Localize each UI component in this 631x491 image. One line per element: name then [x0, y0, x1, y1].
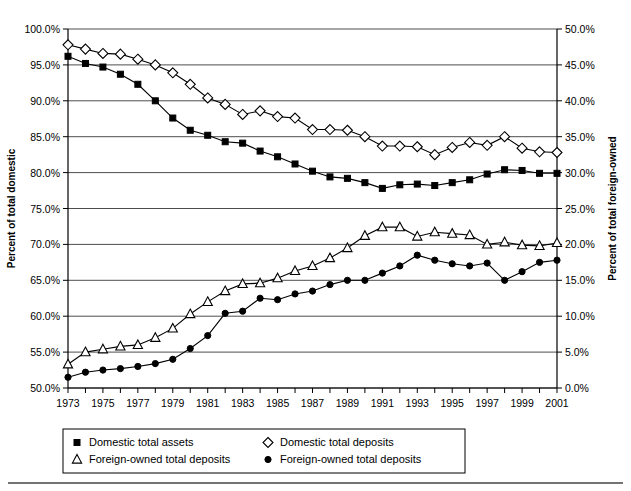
series-marker-3 [65, 374, 71, 380]
series-marker-3 [222, 310, 228, 316]
series-marker-2 [430, 227, 439, 236]
x-axis-tick-label: 1979 [161, 397, 185, 409]
y-axis-right-tick-label: 45.0% [565, 59, 595, 71]
series-marker-0 [117, 71, 123, 77]
series-marker-1 [482, 140, 492, 150]
series-marker-3 [502, 277, 508, 283]
series-marker-3 [344, 277, 350, 283]
x-axis-tick-label: 1973 [56, 397, 80, 409]
y-axis-left-tick-label: 75.0% [30, 203, 60, 215]
series-marker-2 [186, 309, 195, 318]
chart-figure: 50.0%55.0%60.0%65.0%70.0%75.0%80.0%85.0%… [0, 0, 631, 491]
series-marker-0 [449, 180, 455, 186]
series-marker-0 [82, 60, 88, 66]
series-marker-0 [257, 148, 263, 154]
series-marker-3 [536, 259, 542, 265]
series-marker-1 [360, 132, 370, 142]
series-marker-2 [133, 340, 142, 349]
series-marker-3 [362, 277, 368, 283]
series-marker-3 [82, 369, 88, 375]
series-marker-1 [342, 125, 352, 135]
y-axis-left-tick-label: 55.0% [30, 346, 60, 358]
series-marker-1 [412, 142, 422, 152]
y-axis-right-tick-label: 20.0% [565, 238, 595, 250]
series-marker-3 [187, 345, 193, 351]
series-marker-1 [535, 147, 545, 157]
series-marker-1 [63, 40, 73, 50]
series-marker-3 [414, 252, 420, 258]
x-axis-tick-label: 1995 [441, 397, 465, 409]
series-marker-0 [275, 154, 281, 160]
x-axis-tick-label: 1997 [475, 397, 499, 409]
y-axis-left-tick-label: 50.0% [30, 382, 60, 394]
series-marker-1 [115, 49, 125, 59]
legend-marker-3 [265, 456, 271, 462]
series-marker-0 [292, 161, 298, 167]
series-marker-1 [133, 54, 143, 64]
x-axis-tick-label: 1999 [510, 397, 534, 409]
y-axis-left-tick-label: 90.0% [30, 95, 60, 107]
y-axis-right-tick-label: 15.0% [565, 274, 595, 286]
x-axis-tick-label: 1993 [406, 397, 430, 409]
series-marker-3 [274, 297, 280, 303]
series-marker-3 [240, 308, 246, 314]
y-axis-left-tick-label: 65.0% [30, 274, 60, 286]
legend-label-2: Foreign-owned total deposits [89, 453, 231, 465]
series-marker-3 [449, 261, 455, 267]
series-marker-0 [379, 185, 385, 191]
series-marker-2 [552, 238, 561, 247]
series-marker-3 [292, 291, 298, 297]
series-marker-0 [484, 171, 490, 177]
y-axis-left-title: Percent of total domestic [6, 148, 17, 268]
series-marker-0 [170, 115, 176, 121]
series-marker-1 [447, 142, 457, 152]
series-marker-2 [360, 231, 369, 240]
y-axis-left-tick-label: 95.0% [30, 59, 60, 71]
series-marker-3 [135, 363, 141, 369]
y-axis-right-tick-label: 50.0% [565, 23, 595, 35]
series-marker-1 [500, 132, 510, 142]
series-marker-3 [467, 263, 473, 269]
series-marker-0 [397, 182, 403, 188]
legend-marker-0 [74, 440, 80, 446]
series-marker-1 [552, 147, 562, 157]
series-marker-1 [325, 125, 335, 135]
series-marker-3 [327, 282, 333, 288]
series-marker-1 [517, 143, 527, 153]
series-marker-3 [484, 260, 490, 266]
x-axis-tick-label: 1981 [196, 397, 220, 409]
series-marker-1 [377, 141, 387, 151]
series-marker-0 [310, 168, 316, 174]
series-marker-2 [325, 253, 334, 262]
x-axis-tick-label: 1983 [231, 397, 255, 409]
series-marker-0 [414, 181, 420, 187]
y-axis-right-tick-label: 35.0% [565, 131, 595, 143]
series-marker-0 [554, 170, 560, 176]
y-axis-right-tick-label: 40.0% [565, 95, 595, 107]
series-marker-3 [205, 332, 211, 338]
y-axis-left-tick-label: 60.0% [30, 310, 60, 322]
y-axis-left-tick-label: 80.0% [30, 167, 60, 179]
y-axis-right-tick-label: 30.0% [565, 167, 595, 179]
series-marker-1 [273, 112, 283, 122]
series-marker-1 [255, 106, 265, 116]
y-axis-left-tick-label: 100.0% [24, 23, 60, 35]
x-axis-tick-label: 1989 [336, 397, 360, 409]
series-marker-2 [151, 333, 160, 342]
series-marker-1 [185, 79, 195, 89]
series-marker-0 [240, 140, 246, 146]
series-marker-3 [100, 367, 106, 373]
y-axis-right-tick-label: 10.0% [565, 310, 595, 322]
series-marker-0 [100, 64, 106, 70]
series-marker-0 [152, 98, 158, 104]
series-marker-3 [432, 257, 438, 263]
series-marker-0 [502, 167, 508, 173]
legend-label-0: Domestic total assets [89, 436, 194, 448]
series-marker-0 [135, 81, 141, 87]
y-axis-right-title: Percent of total foreign-owned [607, 136, 618, 280]
series-marker-1 [98, 48, 108, 58]
series-marker-2 [168, 323, 177, 332]
y-axis-left-tick-label: 70.0% [30, 238, 60, 250]
chart-canvas: 50.0%55.0%60.0%65.0%70.0%75.0%80.0%85.0%… [0, 0, 631, 491]
series-marker-2 [273, 273, 282, 282]
